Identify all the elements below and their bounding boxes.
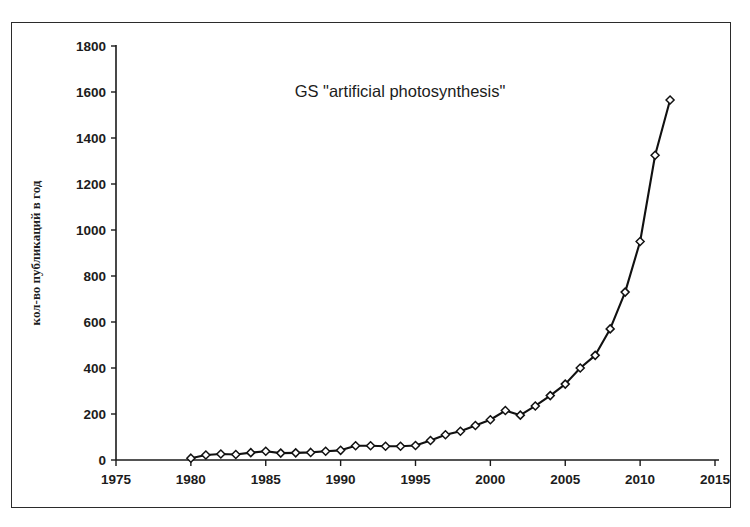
data-point-marker bbox=[367, 442, 375, 450]
data-line-series bbox=[191, 100, 670, 458]
x-axis-ticks: 197519801985199019952000200520102015 bbox=[101, 460, 731, 487]
data-point-marker bbox=[232, 450, 240, 458]
data-point-marker bbox=[471, 422, 479, 430]
chart-figure: 020040060080010001200140016001800 197519… bbox=[0, 0, 750, 527]
data-point-marker bbox=[307, 448, 315, 456]
data-point-marker bbox=[292, 449, 300, 457]
x-tick-label: 1975 bbox=[101, 472, 132, 487]
y-tick-label: 1800 bbox=[76, 39, 106, 54]
y-tick-label: 400 bbox=[83, 361, 106, 376]
x-tick-label: 2000 bbox=[475, 472, 505, 487]
data-point-marker bbox=[606, 325, 614, 333]
x-tick-label: 2010 bbox=[625, 472, 655, 487]
chart-title: GS "artificial photosynthesis" bbox=[295, 82, 506, 100]
data-point-marker bbox=[397, 442, 405, 450]
data-point-marker bbox=[202, 451, 210, 459]
y-tick-label: 0 bbox=[98, 453, 106, 468]
chart-plot-area: 020040060080010001200140016001800 197519… bbox=[0, 0, 750, 527]
data-point-marker bbox=[636, 238, 644, 246]
y-tick-label: 1000 bbox=[76, 223, 106, 238]
data-point-marker bbox=[382, 442, 390, 450]
y-tick-label: 1200 bbox=[76, 177, 106, 192]
data-point-marker bbox=[426, 436, 434, 444]
x-tick-label: 1990 bbox=[326, 472, 356, 487]
x-tick-label: 1985 bbox=[251, 472, 282, 487]
y-tick-label: 200 bbox=[83, 407, 106, 422]
data-point-marker bbox=[187, 454, 195, 462]
data-point-marker bbox=[262, 447, 270, 455]
y-axis-title: кол-во публикаций в год bbox=[28, 180, 43, 325]
x-tick-label: 2005 bbox=[550, 472, 581, 487]
data-point-marker bbox=[651, 151, 659, 159]
data-point-marker bbox=[337, 446, 345, 454]
y-tick-label: 1400 bbox=[76, 131, 106, 146]
data-point-marker bbox=[247, 449, 255, 457]
data-point-marker bbox=[456, 427, 464, 435]
data-point-marker bbox=[322, 447, 330, 455]
data-point-marker bbox=[217, 450, 225, 458]
y-tick-label: 600 bbox=[83, 315, 106, 330]
x-tick-label: 1980 bbox=[176, 472, 206, 487]
data-point-marker bbox=[666, 96, 674, 104]
data-point-marker bbox=[441, 431, 449, 439]
y-axis-ticks: 020040060080010001200140016001800 bbox=[76, 39, 116, 468]
x-tick-label: 2015 bbox=[700, 472, 731, 487]
data-point-marker bbox=[277, 449, 285, 457]
y-tick-label: 800 bbox=[83, 269, 106, 284]
data-point-marker bbox=[412, 442, 420, 450]
data-point-marker bbox=[621, 288, 629, 296]
x-tick-label: 1995 bbox=[400, 472, 431, 487]
data-point-marker bbox=[352, 442, 360, 450]
data-point-markers bbox=[187, 96, 674, 462]
y-tick-label: 1600 bbox=[76, 85, 106, 100]
